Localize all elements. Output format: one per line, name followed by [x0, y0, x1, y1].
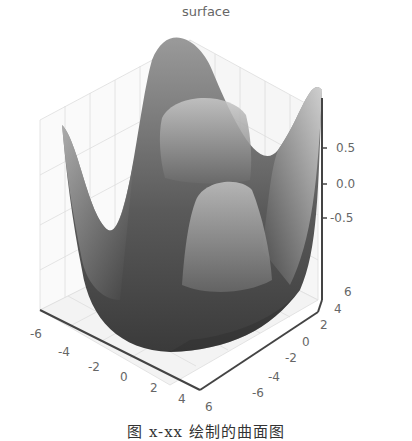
- x-tick: -6: [30, 327, 42, 341]
- z-tick: -0.5: [330, 211, 353, 225]
- x-tick: 4: [178, 392, 186, 406]
- x-tick: 0: [120, 370, 128, 384]
- y-tick: 6: [344, 285, 352, 299]
- y-tick: 4: [334, 302, 342, 316]
- y-tick: 0: [302, 335, 310, 349]
- y-tick: 2: [320, 318, 328, 332]
- y-tick: -6: [252, 386, 264, 400]
- x-tick: -4: [58, 345, 70, 359]
- y-tick: -2: [285, 351, 297, 365]
- y-tick: -4: [268, 370, 280, 384]
- z-tick: 0.5: [336, 141, 355, 155]
- figure-caption: 图 x-xx 绘制的曲面图: [0, 420, 412, 441]
- x-tick: 6: [205, 400, 213, 414]
- x-tick: 2: [150, 381, 158, 395]
- x-tick: -2: [88, 360, 100, 374]
- z-tick: 0.0: [336, 177, 355, 191]
